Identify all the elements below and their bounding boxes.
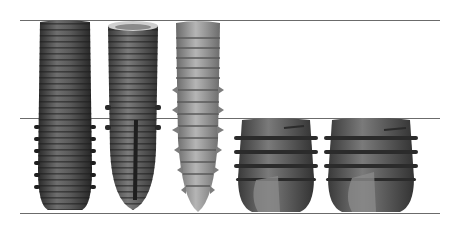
implant-3 xyxy=(170,20,226,213)
implant-2 xyxy=(104,20,162,213)
implant-4 xyxy=(234,118,318,213)
bottom-reference-line xyxy=(20,213,440,214)
implant-5 xyxy=(324,118,418,213)
implant-1 xyxy=(34,20,96,213)
